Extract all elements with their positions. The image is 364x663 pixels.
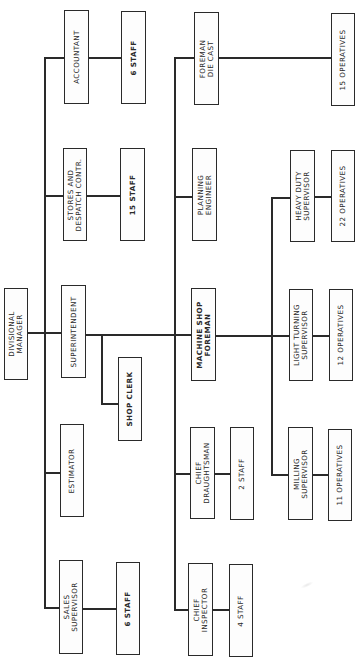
connector-machine-shop-bus	[216, 335, 289, 337]
label-divisional-manager: DIVISIONAL MANAGER	[8, 311, 24, 356]
label-milling-operatives: 11 OPERATIVES	[336, 445, 344, 506]
connector-heavy-duty	[271, 197, 290, 199]
box-foreman-die-cast: FOREMAN DIE CAST	[194, 12, 219, 105]
box-heavy-duty-operatives: 22 OPERATIVES	[331, 150, 355, 242]
label-draughtsman-staff: 2 STAFF	[238, 458, 246, 489]
connector-milling-ops	[313, 474, 328, 476]
label-milling-supervisor: MILLING SUPERVISOR	[293, 449, 309, 499]
connector-accountant-staff	[89, 57, 121, 59]
box-planning-engineer: PLANNING ENGINEER	[192, 148, 217, 241]
label-sales-supervisor: SALES SUPERVISOR	[63, 582, 79, 632]
label-planning-engineer: PLANNING ENGINEER	[197, 174, 213, 214]
label-die-cast-operatives: 15 OPERATIVES	[339, 29, 347, 90]
connector-stores-staff	[87, 195, 120, 197]
label-foreman-die-cast: FOREMAN DIE CAST	[199, 39, 215, 78]
box-sales-supervisor: SALES SUPERVISOR	[59, 560, 83, 654]
label-accountant: ACCOUNTANT	[73, 30, 81, 84]
connector-light-turning-ops	[313, 335, 329, 337]
label-estimator: ESTIMATOR	[68, 448, 76, 493]
box-light-turning-supervisor: LIGHT TURNING SUPERVISOR	[289, 289, 313, 381]
connector-die-cast	[174, 57, 194, 59]
box-milling-supervisor: MILLING SUPERVISOR	[288, 427, 313, 520]
label-sales-staff: 6 STAFF	[124, 591, 132, 626]
box-shop-clerk: SHOP CLERK	[118, 357, 142, 441]
connector-draughtsman	[174, 473, 190, 475]
label-chief-draughtsman: CHIEF DRAUGHTSMAN	[195, 442, 211, 503]
label-shop-clerk: SHOP CLERK	[126, 372, 134, 427]
connector-accountant	[45, 57, 64, 59]
label-superintendent: SUPERINTENDENT	[70, 296, 78, 367]
org-chart: DIVISIONAL MANAGER ACCOUNTANT 6 STAFF ST…	[0, 0, 364, 663]
connector-stores	[45, 195, 63, 197]
box-machine-shop-foreman: MACHINE SHOP FOREMAN	[191, 288, 216, 381]
label-accountant-staff: 6 STAFF	[130, 40, 138, 75]
box-stores-despatch: STORES AND DESPATCH CONTR.	[63, 148, 87, 241]
label-stores-despatch: STORES AND DESPATCH CONTR.	[67, 158, 83, 231]
box-die-cast-operatives: 15 OPERATIVES	[331, 13, 355, 106]
box-milling-operatives: 11 OPERATIVES	[328, 429, 352, 521]
connector-shop-clerk	[101, 403, 118, 405]
box-chief-draughtsman: CHIEF DRAUGHTSMAN	[190, 427, 215, 519]
box-light-turning-operatives: 12 OPERATIVES	[329, 289, 353, 381]
label-stores-staff: 15 STAFF	[129, 174, 137, 215]
connector-estimator	[45, 472, 60, 474]
box-sales-staff: 6 STAFF	[116, 562, 140, 655]
connector-die-cast-ops	[219, 57, 331, 59]
box-stores-staff: 15 STAFF	[120, 148, 145, 241]
label-machine-shop-foreman: MACHINE SHOP FOREMAN	[196, 301, 212, 368]
box-draughtsman-staff: 2 STAFF	[230, 427, 254, 520]
connector-planning	[174, 196, 192, 198]
connector-heavy-duty-ops	[315, 196, 331, 198]
bus-3	[271, 197, 273, 475]
box-estimator: ESTIMATOR	[60, 424, 84, 517]
connector-shop-clerk-vertical	[101, 334, 103, 404]
bus-1	[44, 57, 46, 609]
label-light-turning-operatives: 12 OPERATIVES	[337, 305, 345, 366]
paper-speck	[300, 580, 314, 590]
label-heavy-duty-operatives: 22 OPERATIVES	[339, 166, 347, 227]
label-inspector-staff: 4 STAFF	[237, 595, 245, 626]
box-superintendent: SUPERINTENDENT	[61, 285, 86, 378]
bus-2	[174, 57, 176, 610]
box-heavy-duty-supervisor: HEAVY DUTY SUPERVISOR	[290, 150, 315, 242]
box-accountant-staff: 6 STAFF	[121, 11, 146, 104]
connector-inspector	[174, 609, 188, 611]
box-divisional-manager: DIVISIONAL MANAGER	[4, 288, 28, 380]
label-heavy-duty-supervisor: HEAVY DUTY SUPERVISOR	[295, 171, 311, 221]
connector-sales	[44, 607, 59, 609]
label-chief-inspector: CHIEF INSPECTOR	[193, 587, 209, 632]
box-chief-inspector: CHIEF INSPECTOR	[188, 563, 213, 656]
connector-draughtsman-staff	[215, 473, 230, 475]
box-accountant: ACCOUNTANT	[64, 10, 89, 104]
connector-inspector-staff	[213, 609, 229, 611]
connector-sales-staff	[83, 608, 116, 610]
connector-milling	[271, 474, 288, 476]
box-inspector-staff: 4 STAFF	[229, 564, 253, 657]
label-light-turning-supervisor: LIGHT TURNING SUPERVISOR	[293, 304, 309, 366]
